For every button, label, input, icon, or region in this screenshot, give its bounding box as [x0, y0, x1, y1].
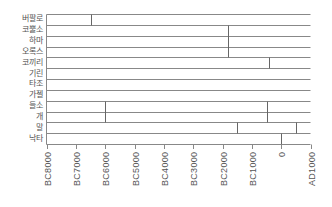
- x-tick-label: 0: [277, 152, 287, 157]
- row-label: 말: [36, 123, 43, 133]
- row-label: 가젤: [29, 90, 43, 100]
- x-tick-label: AD1000: [307, 152, 317, 186]
- row-label: 오록스: [22, 47, 43, 57]
- x-tick-label: BC2000: [219, 152, 229, 186]
- row-label: 낙타: [29, 134, 43, 144]
- x-tick-label: BC7000: [72, 152, 82, 186]
- row-label: 기린: [29, 69, 43, 79]
- row-label: 코끼리: [22, 58, 43, 68]
- x-tick-label: BC3000: [189, 152, 199, 186]
- x-tick-label: BC5000: [131, 152, 141, 186]
- row-label: 개: [36, 112, 43, 122]
- row-label: 들소: [29, 101, 43, 111]
- row-label: 버팔로: [22, 14, 43, 24]
- x-tick-label: BC6000: [101, 152, 111, 186]
- x-tick-label: BC4000: [160, 152, 170, 186]
- x-tick-label: BC8000: [43, 152, 53, 186]
- x-tick-label: BC1000: [248, 152, 258, 186]
- timeline-chart: BC8000BC7000BC6000BC5000BC4000BC3000BC20…: [0, 0, 332, 207]
- row-label: 하마: [29, 36, 43, 46]
- row-label: 코뿔소: [22, 25, 43, 35]
- row-label: 타조: [29, 79, 43, 89]
